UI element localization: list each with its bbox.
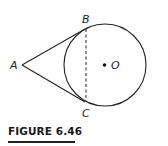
caption-underline xyxy=(8,141,75,143)
tangent-ab xyxy=(22,29,85,65)
label-b: B xyxy=(82,13,90,26)
figure-caption: FIGURE 6.46 xyxy=(8,125,82,137)
label-o: O xyxy=(111,59,120,72)
label-c: C xyxy=(82,107,90,120)
tangent-ac xyxy=(22,65,85,102)
center-point-o xyxy=(103,63,107,67)
label-a: A xyxy=(9,59,18,72)
